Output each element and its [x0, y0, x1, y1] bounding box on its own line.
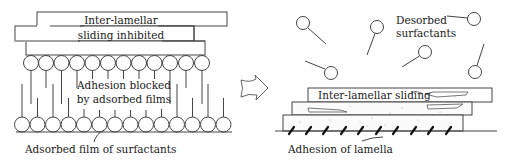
- desorbed-label-line1: Desorbed: [396, 14, 447, 26]
- plate-label-line2: sliding inhibited: [78, 29, 165, 41]
- free-surfactant: [305, 61, 338, 80]
- adsorbed-film-label: Adsorbed film of surfactants: [24, 143, 176, 155]
- desorbed-label-line2: surfactants: [396, 27, 456, 39]
- free-surfactant: [447, 13, 481, 26]
- free-surfactant: [297, 17, 327, 45]
- free-surfactant: [469, 44, 485, 79]
- adhesion-of-lamella-label: Adhesion of lamella: [287, 143, 393, 155]
- right-panel: [275, 13, 497, 142]
- desorbed-surfactants: [297, 13, 485, 80]
- surfactant-lamella-diagram: Inter-lamellar sliding inhibited Adhesio…: [0, 0, 508, 165]
- adhesion-blocked-label-line1: Adhesion blocked: [76, 79, 171, 91]
- free-surfactant: [367, 21, 384, 56]
- inter-lamellar-sliding-label: Inter-lamellar sliding: [318, 89, 431, 101]
- diagram-canvas: Inter-lamellar sliding inhibited Adhesio…: [0, 0, 508, 165]
- hollow-right-arrow-icon: [241, 75, 268, 100]
- left-bottom-plate: [26, 41, 205, 55]
- adhesion-lamella-leader-line: [362, 137, 383, 141]
- adhesion-blocked-label-line2: by adsorbed films: [77, 93, 171, 105]
- free-surfactant: [402, 46, 432, 68]
- plate-label-line1: Inter-lamellar: [84, 14, 159, 26]
